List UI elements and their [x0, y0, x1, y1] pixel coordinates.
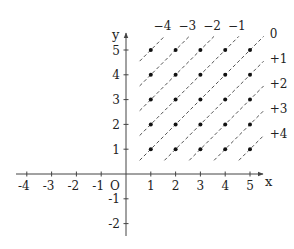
x-tick-label: -2 [68, 179, 80, 193]
lattice-point [174, 98, 178, 102]
lattice-point [149, 48, 153, 52]
lattice-point [149, 98, 153, 102]
origin-label: O [110, 179, 120, 193]
x-axis-name: x [265, 174, 273, 189]
lattice-point [174, 48, 178, 52]
x-tick-label: 2 [172, 179, 180, 193]
lattice-diagram: −4−3−2−10+1+2+3+4 -4-3-2-112345-2-112345… [0, 0, 294, 249]
lattice-point [149, 122, 153, 126]
lattice-point [198, 73, 202, 77]
x-tick-label: 4 [221, 179, 229, 193]
dashed-line-k3 [214, 111, 264, 161]
dashed-line-label: +1 [270, 52, 288, 66]
y-tick-label: 3 [112, 93, 120, 107]
y-tick-label: 1 [112, 143, 120, 157]
lattice-point [174, 73, 178, 77]
x-tick-label: -4 [18, 179, 30, 193]
y-tick-label: 2 [112, 118, 120, 132]
y-axis-name: y [111, 27, 120, 42]
lattice-point [248, 48, 252, 52]
lattice-point [223, 98, 227, 102]
y-tick-label: 4 [112, 68, 120, 82]
ticks-group: -4-3-2-112345-2-112345 [18, 44, 254, 232]
lattice-point [248, 122, 252, 126]
dashed-line-k-3 [140, 36, 190, 86]
lattice-point [174, 147, 178, 151]
lattice-point [198, 147, 202, 151]
x-tick-label: -3 [43, 179, 55, 193]
dashed-line-label: −4 [154, 19, 172, 33]
lattice-point [223, 122, 227, 126]
y-tick-label: -1 [108, 192, 120, 206]
lattice-point [174, 122, 178, 126]
dashed-line-label: +4 [270, 127, 288, 141]
lattice-point [248, 98, 252, 102]
lattice-point [248, 147, 252, 151]
x-tick-label: -1 [92, 179, 104, 193]
lattice-point [198, 98, 202, 102]
dashed-line-label: +3 [270, 102, 288, 116]
lattice-point [149, 73, 153, 77]
lattice-point [149, 147, 153, 151]
labels-group: x y O [110, 27, 273, 193]
lattice-point [248, 73, 252, 77]
dashed-line-label: 0 [270, 27, 278, 41]
lattice-point [223, 73, 227, 77]
axes-group [16, 33, 263, 236]
x-tick-label: 1 [147, 179, 155, 193]
lattice-point [223, 48, 227, 52]
lattice-point [223, 147, 227, 151]
x-tick-label: 5 [246, 179, 254, 193]
dashed-line-label: +2 [270, 77, 288, 91]
lattice-point [198, 48, 202, 52]
lattice-point [198, 122, 202, 126]
dashed-lines-group: −4−3−2−10+1+2+3+4 [140, 19, 288, 160]
dashed-line-label: −2 [203, 19, 221, 33]
dashed-line-label: −3 [178, 19, 196, 33]
y-tick-label: -2 [108, 217, 120, 231]
y-tick-label: 5 [112, 44, 120, 58]
x-tick-label: 3 [197, 179, 205, 193]
dashed-line-label: −1 [228, 19, 246, 33]
